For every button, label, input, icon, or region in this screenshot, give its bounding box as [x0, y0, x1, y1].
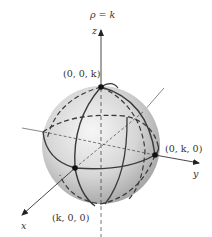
figure-title: ρ = k — [89, 9, 116, 20]
y-axis-label: y — [192, 168, 199, 179]
z-intercept-point — [98, 84, 104, 90]
y-intercept-point — [152, 152, 158, 158]
x-intercept-point — [72, 165, 78, 171]
z-intercept-label: (0, 0, k) — [63, 68, 100, 79]
sphere-diagram: ρ = k z x y (0, 0, k) (0, k, 0) (k, 0, 0… — [0, 0, 212, 237]
z-axis-label: z — [91, 25, 98, 36]
y-axis-negative — [22, 128, 44, 132]
x-intercept-label: (k, 0, 0) — [52, 212, 89, 223]
x-axis-label: x — [21, 220, 27, 231]
y-axis — [155, 155, 199, 163]
y-intercept-label: (0, k, 0) — [165, 143, 202, 154]
